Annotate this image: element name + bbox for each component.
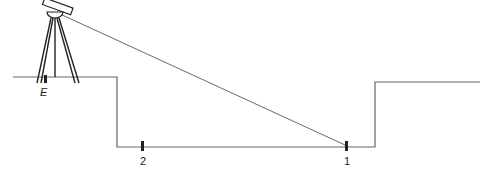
tripod-icon [37,18,79,83]
label-point-1: 1 [344,155,350,167]
staff-mark-1 [345,141,348,151]
sight-line [60,14,345,145]
label-point-2: 2 [140,155,146,167]
staff-mark-2 [141,141,144,151]
diagram-canvas [0,0,491,176]
level-instrument-icon [42,0,73,18]
label-E: E [40,86,47,98]
terrain-profile [13,77,480,147]
staff-mark-E [44,75,47,83]
